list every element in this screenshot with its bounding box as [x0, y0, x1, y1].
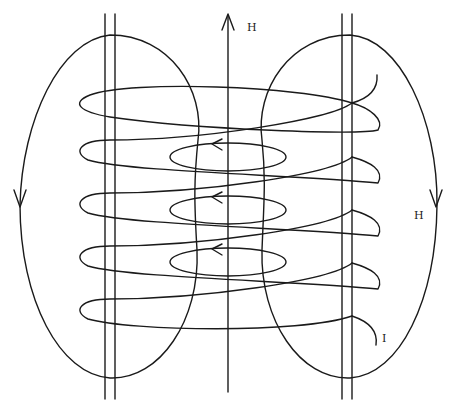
left-solenoid-wall [105, 14, 115, 399]
left-arrow-icon [212, 139, 222, 150]
return-field-label: H [414, 209, 424, 222]
axis-field-label: H [247, 21, 257, 34]
solenoid-diagram: H H I [0, 0, 451, 406]
right-solenoid-wall [342, 14, 352, 399]
solenoid-coil [80, 75, 380, 345]
central-axis-arrow [222, 14, 234, 392]
current-label: I [382, 332, 386, 345]
left-arrow-icon [212, 192, 222, 203]
right-loop-arrow-icon [430, 190, 442, 207]
left-arrow-icon [212, 244, 222, 255]
